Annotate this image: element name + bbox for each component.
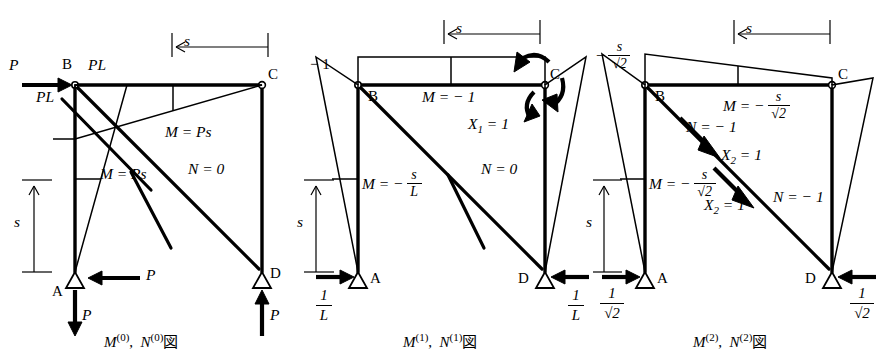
caption-2-zu: 図: [752, 334, 767, 350]
label-reaction-A-fraction: 1 L: [316, 288, 332, 323]
reaction-A-denominator: √2: [604, 306, 620, 321]
fraction-denominator: L: [410, 185, 418, 199]
caption-2-M-sup: (2): [706, 331, 719, 343]
figure-canvas: P B PL C PL M = Ps M = Ps N = 0 A D P P …: [0, 0, 888, 357]
node-label-D: D: [805, 270, 816, 287]
label-axial-N-zero: N = 0: [481, 160, 517, 178]
node-label-D: D: [518, 270, 529, 287]
label-axial-N-upper: N = − 1: [686, 118, 737, 136]
caption-1-comma: ,: [428, 334, 432, 350]
node-label-A: A: [52, 283, 63, 300]
label-load-P-top: P: [9, 56, 18, 74]
label-moment-PL-beam: PL: [88, 56, 106, 74]
label-dim-s-horizontal: s: [456, 19, 462, 37]
caption-panel-2: M(2), N(2)図: [693, 330, 767, 351]
panel-1-labels: − 1 B C M = − 1 X1 = 1 M = − s L N = 0 A…: [296, 0, 592, 357]
caption-2-N-sup: (2): [740, 331, 753, 343]
node-label-B: B: [62, 56, 72, 73]
fraction-numerator: s: [411, 168, 416, 182]
label-dim-s-horizontal: s: [746, 19, 752, 37]
caption-2-M: M: [693, 334, 706, 350]
label-moment-column-fraction: M = − s √2: [649, 168, 716, 199]
caption-0-comma: ,: [129, 334, 133, 350]
fraction-numerator: s: [617, 40, 622, 54]
label-unit-force-X2-lower: X2 = 1: [704, 196, 745, 216]
fraction-denominator: √2: [612, 57, 627, 71]
reaction-A-numerator: 1: [608, 286, 616, 301]
label-moment-column-Ps: M = Ps: [100, 165, 147, 183]
label-moment-beam-Ps: M = Ps: [165, 123, 212, 141]
label-moment-column-top: − 1: [310, 56, 330, 73]
caption-1-N: N: [440, 334, 450, 350]
caption-2-N: N: [730, 334, 740, 350]
node-label-D: D: [270, 265, 281, 282]
label-reaction-P-up: P: [270, 306, 279, 324]
moment-column-prefix: M = −: [362, 175, 404, 193]
label-dim-s-vertical: s: [14, 213, 20, 231]
label-reaction-P-down: P: [82, 306, 91, 324]
caption-1-zu: 図: [462, 334, 477, 350]
caption-0-M-sup: (0): [117, 331, 130, 343]
label-axial-N-lower: N = − 1: [773, 188, 824, 206]
node-label-C: C: [838, 66, 848, 83]
label-moment-beam-fraction: M = − s √2: [723, 90, 790, 121]
reaction-A-numerator: 1: [320, 288, 328, 303]
node-label-B: B: [655, 88, 665, 105]
reaction-A-denominator: L: [320, 308, 328, 323]
caption-1-M-sup: (1): [416, 331, 429, 343]
caption-1-M: M: [403, 334, 416, 350]
label-dim-s-horizontal: s: [184, 32, 190, 50]
label-axial-N-zero: N = 0: [188, 160, 224, 178]
fraction-numerator: s: [702, 168, 707, 182]
moment-beam-prefix: M = −: [723, 97, 765, 115]
panel-0-labels: P B PL C PL M = Ps M = Ps N = 0 A D P P …: [0, 0, 296, 357]
caption-panel-0: M(0), N(0)図: [104, 330, 178, 351]
label-dim-s-vertical: s: [297, 213, 303, 231]
moment-column-top-prefix: −: [595, 47, 605, 65]
caption-row: M(0), N(0)図 M(1), N(1)図 M(2), N(2)図: [0, 330, 888, 357]
caption-0-zu: 図: [163, 334, 178, 350]
label-moment-column-top-fraction: − s √2: [595, 40, 630, 71]
reaction-D-numerator: 1: [858, 286, 866, 301]
moment-column-prefix: M = −: [649, 175, 691, 193]
caption-1-N-sup: (1): [450, 331, 463, 343]
node-label-B: B: [368, 88, 378, 105]
label-reaction-A-fraction: 1 √2: [600, 286, 624, 321]
node-label-A: A: [370, 270, 381, 287]
label-moment-PL-column: PL: [36, 88, 54, 106]
fraction-denominator: √2: [771, 107, 786, 121]
reaction-D-denominator: √2: [854, 306, 870, 321]
caption-2-comma: ,: [718, 334, 722, 350]
node-label-C: C: [268, 66, 278, 83]
label-moment-beam: M = − 1: [422, 88, 475, 106]
caption-0-N-sup: (0): [151, 331, 164, 343]
label-unit-force-X2-upper: X2 = 1: [721, 146, 762, 166]
reaction-D-numerator: 1: [572, 288, 580, 303]
panel-2-labels: − s √2 B C M = − s √2 N = − 1 X2 = 1 M =…: [592, 0, 888, 357]
caption-panel-1: M(1), N(1)図: [403, 330, 477, 351]
label-reaction-P-horizontal: P: [146, 266, 155, 284]
label-moment-column-fraction: M = − s L: [362, 168, 422, 199]
label-reaction-D-fraction: 1 L: [568, 288, 584, 323]
node-label-C: C: [550, 66, 560, 83]
fraction-numerator: s: [776, 90, 781, 104]
label-dim-s-vertical: s: [586, 213, 592, 231]
caption-0-M: M: [104, 334, 117, 350]
label-unit-moment-X1: X1 = 1: [468, 115, 509, 135]
node-label-A: A: [657, 270, 668, 287]
reaction-D-denominator: L: [572, 308, 580, 323]
caption-0-N: N: [141, 334, 151, 350]
label-reaction-D-fraction: 1 √2: [850, 286, 874, 321]
